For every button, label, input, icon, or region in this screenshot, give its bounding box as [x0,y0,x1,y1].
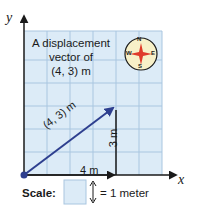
compass-n: N [137,36,141,42]
compass-s: S [138,63,142,69]
diagram-canvas [0,0,197,214]
x-axis-label: x [178,172,184,188]
compass-e: E [151,50,155,56]
y-axis-label: y [6,10,12,26]
origin-dot [21,172,28,179]
scale-equals: = 1 meter [100,187,149,199]
title-line-3: (4, 3) m [30,64,112,78]
title-line-2: vector of [30,50,112,64]
title-line-1: A displacement [30,36,112,50]
scale-label: Scale: [22,187,56,199]
vertical-component-label: 3 m [107,129,119,147]
scale-legend [64,180,96,204]
horizontal-component-label: 4 m [80,164,98,176]
compass-w: W [126,50,132,56]
diagram-title: A displacement vector of (4, 3) m [30,36,112,78]
